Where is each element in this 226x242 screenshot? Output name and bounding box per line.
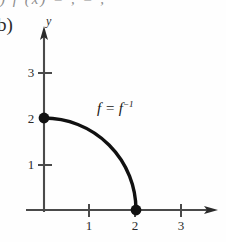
x-tick-label-1: 1 xyxy=(82,218,96,234)
x-axis xyxy=(26,206,218,214)
endpoint-dot-2-0 xyxy=(131,205,142,216)
curve-label-base: f = f xyxy=(97,100,123,116)
endpoint-dot-0-2 xyxy=(39,113,50,124)
curve-label: f = f−1 xyxy=(97,99,134,117)
x-tick-label-2: 2 xyxy=(128,218,142,234)
y-tick-label-1: 1 xyxy=(24,157,38,173)
figure-panel: ) f (x) = , = , b) y xyxy=(0,0,226,242)
y-tick-label-3: 3 xyxy=(24,65,38,81)
y-tick-label-2: 2 xyxy=(24,111,38,127)
function-curve xyxy=(44,118,136,210)
curve-label-exponent: −1 xyxy=(123,99,134,109)
x-tick-label-3: 3 xyxy=(174,218,188,234)
